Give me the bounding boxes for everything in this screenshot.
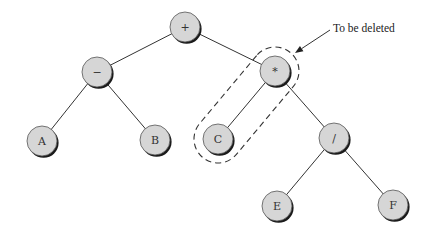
node-label: B [151,134,159,147]
tree-node-F: F [378,190,410,222]
node-label: * [272,65,278,78]
node-label: − [92,66,101,79]
node-label: F [389,199,397,212]
tree-edges [42,27,393,206]
node-label: A [37,135,47,148]
tree-node-C: C [203,124,235,156]
tree-node-A: A [27,126,59,158]
annotation-label: To be deleted [333,22,395,34]
node-label: E [273,200,281,213]
tree-node-plus: + [170,12,202,44]
expression-tree-diagram: +−*ABC/EF To be deleted [0,0,433,243]
node-label: C [214,133,222,146]
node-label: + [180,21,189,34]
tree-node-E: E [262,191,294,223]
node-label: / [332,132,336,145]
annotation-arrow-line [302,30,330,49]
tree-node-B: B [140,125,172,157]
arrow-head-icon [295,46,303,53]
tree-node-minus: − [82,57,114,89]
deletion-annotation: To be deleted [295,22,395,53]
